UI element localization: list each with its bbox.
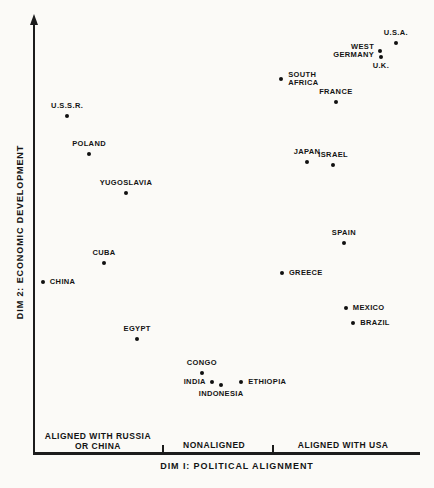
x-axis-tick [272, 445, 274, 453]
data-point [342, 241, 346, 245]
y-axis-arrow-icon [30, 14, 38, 25]
point-label: EGYPT [124, 325, 151, 333]
data-point [102, 261, 106, 265]
data-point [65, 114, 69, 118]
point-label: U.S.S.R. [51, 102, 83, 110]
zone-label: ALIGNED WITH USA [298, 441, 389, 451]
data-point [331, 163, 335, 167]
point-label: BRAZIL [360, 319, 390, 327]
data-point [351, 321, 355, 325]
mds-nations-scatter-figure: ALIGNED WITH RUSSIAOR CHINANONALIGNEDALI… [0, 0, 434, 488]
data-point [219, 383, 223, 387]
data-point [280, 271, 284, 275]
data-point [41, 280, 45, 284]
point-label: MEXICO [353, 304, 385, 312]
zone-label: NONALIGNED [183, 441, 245, 451]
x-axis-tick [162, 445, 164, 453]
point-label: U.S.A. [384, 29, 408, 37]
data-point [279, 77, 283, 81]
x-axis-title: DIM I: POLITICAL ALIGNMENT [160, 461, 313, 471]
x-axis-line [33, 452, 420, 455]
data-point [334, 100, 338, 104]
data-point [379, 55, 383, 59]
data-point [135, 337, 139, 341]
data-point [394, 41, 398, 45]
data-point [344, 306, 348, 310]
data-point [378, 49, 382, 53]
point-label: CUBA [93, 249, 116, 257]
point-label: CONGO [187, 359, 217, 367]
data-point [200, 371, 204, 375]
y-axis-title: DIM 2: ECONOMIC DEVELOPMENT [15, 145, 25, 319]
point-label: INDIA [184, 378, 206, 386]
point-label: SOUTHAFRICA [288, 71, 318, 87]
point-label: ETHIOPIA [248, 378, 286, 386]
point-label: YUGOSLAVIA [100, 179, 153, 187]
point-label: GREECE [289, 269, 323, 277]
point-label: JAPAN [294, 148, 321, 156]
point-label: WESTGERMANY [333, 43, 374, 59]
point-label: U.K. [373, 62, 389, 70]
point-label: CHINA [50, 278, 76, 286]
y-axis-line [33, 24, 35, 454]
point-label: SPAIN [332, 229, 356, 237]
data-point [210, 380, 214, 384]
zone-label: ALIGNED WITH RUSSIAOR CHINA [45, 432, 151, 451]
point-label: POLAND [72, 140, 106, 148]
point-label: ISRAEL [318, 151, 348, 159]
point-label: INDONESIA [199, 390, 244, 398]
data-point [124, 191, 128, 195]
data-point [239, 380, 243, 384]
data-point [87, 152, 91, 156]
data-point [305, 160, 309, 164]
point-label: FRANCE [319, 88, 352, 96]
